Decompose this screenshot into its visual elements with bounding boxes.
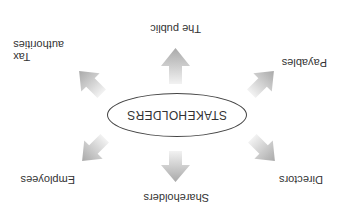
label-tax-authorities: Tax authorities xyxy=(13,39,64,63)
label-directors: Directors xyxy=(279,174,323,186)
arrow-the-public-icon xyxy=(161,48,190,84)
label-tax-line2: authorities xyxy=(13,39,64,51)
stakeholders-ellipse: STAKEHOLDERS xyxy=(107,93,247,137)
arrow-tax-authorities-icon xyxy=(70,62,111,103)
arrow-employees-icon xyxy=(73,129,114,170)
label-the-public: The public xyxy=(150,23,201,35)
label-payables: Payables xyxy=(282,57,327,69)
stakeholders-diagram: STAKEHOLDERS Shareholders Employees Dire… xyxy=(0,0,347,209)
arrow-directors-icon xyxy=(243,129,284,170)
label-tax-line1: Tax xyxy=(13,51,64,63)
label-shareholders: Shareholders xyxy=(144,192,209,204)
arrow-shareholders-icon xyxy=(161,151,190,182)
label-employees: Employees xyxy=(21,174,75,186)
center-label: STAKEHOLDERS xyxy=(127,108,227,122)
arrow-payables-icon xyxy=(242,62,283,103)
